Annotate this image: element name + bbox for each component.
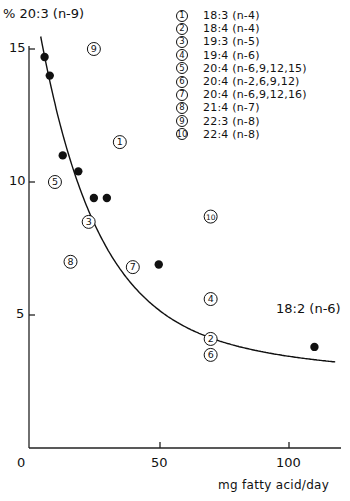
svg-text:1: 1	[117, 136, 123, 147]
circled-number-point-5: 5	[48, 176, 61, 189]
circled-number-point-6: 6	[204, 348, 217, 361]
circled-number-point-7: 7	[126, 261, 139, 274]
svg-text:9: 9	[91, 43, 97, 54]
svg-text:2: 2	[208, 333, 214, 344]
data-point-filled	[46, 71, 54, 79]
circled-number-icon: 5	[176, 62, 188, 74]
circled-number-point-10: 10	[204, 210, 217, 223]
curve-label: 18:2 (n-6)	[276, 301, 341, 316]
circled-number-icon: 8	[176, 102, 188, 114]
x-axis-label: mg fatty acid/day	[218, 478, 329, 492]
data-point-filled	[103, 194, 111, 202]
svg-text:7: 7	[130, 261, 136, 272]
svg-text:10: 10	[206, 213, 216, 222]
legend-item-5: 520:4 (n-6,9,12,15)	[176, 62, 307, 75]
circled-number-icon: 7	[176, 89, 188, 101]
circled-number-point-9: 9	[87, 43, 100, 56]
data-point-filled	[74, 167, 82, 175]
circled-number-icon: 4	[176, 49, 188, 61]
circled-number-icon: 1	[176, 10, 188, 22]
legend-item-8: 821:4 (n-7)	[176, 101, 307, 114]
x-tick-label-0: 0	[17, 455, 25, 470]
svg-text:3: 3	[86, 216, 92, 227]
data-point-filled	[40, 53, 48, 61]
x-tick-label-50: 50	[151, 455, 168, 470]
circled-number-point-2: 2	[204, 332, 217, 345]
circled-number-point-4: 4	[204, 293, 217, 306]
data-point-filled	[59, 151, 67, 159]
circled-number-icon: 9	[176, 115, 188, 127]
legend-item-1: 118:3 (n-4)	[176, 9, 307, 22]
y-tick-label-15: 15	[9, 40, 26, 55]
y-tick-label-5: 5	[16, 306, 24, 321]
circled-number-point-8: 8	[64, 255, 77, 268]
circled-number-point-1: 1	[113, 136, 126, 149]
legend: 118:3 (n-4) 218:4 (n-4) 319:3 (n-5) 419:…	[176, 9, 307, 141]
circled-number-icon: 2	[176, 23, 188, 35]
y-axis-label: % 20:3 (n-9)	[3, 6, 84, 21]
data-point-filled	[90, 194, 98, 202]
legend-item-2: 218:4 (n-4)	[176, 22, 307, 35]
legend-item-10: 1022:4 (n-8)	[176, 128, 307, 141]
x-tick-label-100: 100	[276, 455, 301, 470]
svg-text:8: 8	[67, 256, 73, 267]
circled-number-icon: 10	[176, 128, 188, 140]
legend-item-9: 922:3 (n-8)	[176, 115, 307, 128]
circled-number-icon: 3	[176, 36, 188, 48]
svg-text:4: 4	[208, 293, 214, 304]
svg-text:6: 6	[208, 349, 214, 360]
legend-item-4: 419:4 (n-6)	[176, 49, 307, 62]
data-point-filled	[310, 343, 318, 351]
data-point-filled	[155, 260, 163, 268]
legend-item-7: 720:4 (n-6,9,12,16)	[176, 88, 307, 101]
circled-number-point-3: 3	[82, 215, 95, 228]
legend-item-3: 319:3 (n-5)	[176, 35, 307, 48]
y-tick-label-10: 10	[9, 173, 26, 188]
svg-text:5: 5	[52, 176, 58, 187]
legend-item-6: 620:4 (n-2,6,9,12)	[176, 75, 307, 88]
circled-number-icon: 6	[176, 76, 188, 88]
